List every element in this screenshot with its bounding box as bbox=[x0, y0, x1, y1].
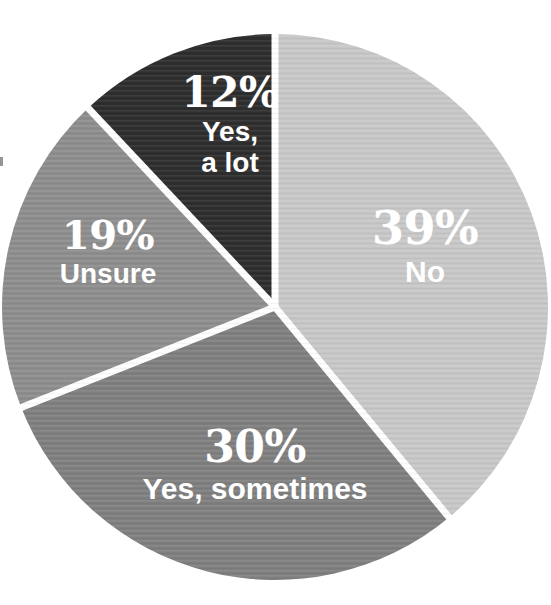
paper-texture-overlay bbox=[2, 34, 548, 580]
pie-chart-figure: 39% No 30% Yes, sometimes 19% Unsure 12%… bbox=[0, 0, 551, 605]
page-edge-artifact bbox=[0, 157, 3, 166]
pie-chart-graphic bbox=[0, 0, 551, 605]
